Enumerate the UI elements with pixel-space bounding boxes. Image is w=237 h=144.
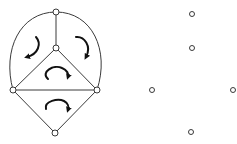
right-graph [150, 12, 236, 135]
edge-left-bottom [13, 90, 55, 133]
node-top [190, 12, 195, 17]
node-bottom [52, 130, 58, 136]
node-top [53, 9, 59, 15]
rotation-arrow-icon-middle [46, 67, 69, 79]
edge-top-left-curved [10, 12, 56, 90]
rotation-arrow-icon-upper-right [76, 37, 88, 57]
graph-diagram [0, 0, 237, 144]
node-right [231, 88, 236, 93]
node-left [150, 88, 155, 93]
node-right [94, 87, 100, 93]
edge-right-bottom [55, 90, 97, 133]
node-bottom [189, 130, 194, 135]
node-center [190, 46, 195, 51]
node-left [10, 87, 16, 93]
rotation-arrow-icon-bottom [46, 100, 69, 110]
rotation-arrow-icon-upper-left [27, 37, 39, 57]
edge-top-right-curved [56, 12, 101, 90]
node-center [53, 45, 59, 51]
left-graph [10, 9, 101, 136]
